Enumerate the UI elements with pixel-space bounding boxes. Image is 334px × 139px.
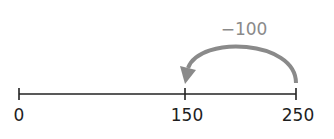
tick-label-0: 0 [14,107,25,124]
arrowhead-icon [180,66,196,84]
tick-label-150: 150 [171,107,203,124]
jump-arc [188,47,296,83]
tick-label-250: 250 [282,107,314,124]
jump-label: −100 [221,21,268,38]
